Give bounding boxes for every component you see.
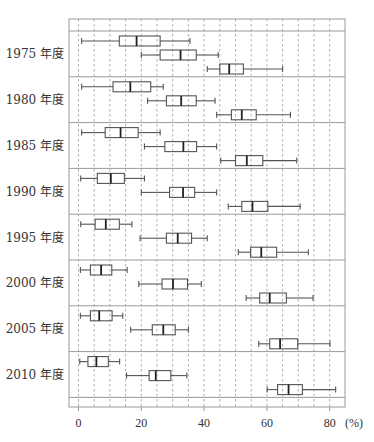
boxplot	[81, 173, 145, 183]
iqr-box	[95, 219, 119, 229]
iqr-box	[162, 279, 187, 289]
boxplot	[267, 385, 335, 395]
x-tick-label: 40	[198, 416, 210, 430]
boxplot	[144, 142, 216, 152]
x-tick-label: 20	[135, 416, 147, 430]
year-label: 1985 年度	[6, 138, 64, 153]
year-label: 1980 年度	[6, 92, 64, 107]
y-axis-labels: 1975 年度1980 年度1985 年度1990 年度1995 年度2000 …	[6, 46, 64, 382]
boxplot	[139, 279, 201, 289]
iqr-box	[236, 156, 263, 166]
x-tick-label: 60	[261, 416, 273, 430]
iqr-box	[251, 247, 277, 257]
iqr-box	[170, 187, 195, 197]
boxplot	[131, 325, 189, 335]
iqr-box	[105, 128, 138, 138]
group-separators	[69, 31, 345, 397]
iqr-box	[260, 293, 287, 303]
x-axis: 020406080	[76, 407, 336, 430]
iqr-box	[242, 201, 268, 211]
boxplot	[221, 156, 297, 166]
x-tick-label: 80	[324, 416, 336, 430]
boxplot	[127, 371, 187, 381]
boxplot	[80, 357, 120, 367]
iqr-box	[113, 82, 151, 92]
boxplot	[82, 36, 190, 46]
boxplot-chart: 1975 年度1980 年度1985 年度1990 年度1995 年度2000 …	[0, 0, 374, 442]
boxplot	[228, 201, 300, 211]
boxplot	[207, 64, 282, 74]
iqr-box	[278, 385, 303, 395]
iqr-box	[160, 50, 196, 60]
boxplot	[80, 311, 122, 321]
iqr-box	[220, 64, 244, 74]
boxplot	[80, 265, 127, 275]
boxplot	[141, 50, 218, 60]
boxplot	[259, 339, 330, 349]
year-label: 1975 年度	[6, 46, 64, 61]
boxplot	[81, 219, 132, 229]
boxplot	[238, 247, 308, 257]
boxplot	[217, 110, 291, 120]
boxplot	[148, 96, 216, 106]
year-label: 2010 年度	[6, 367, 64, 382]
x-tick-label: 0	[76, 416, 82, 430]
boxplot	[82, 128, 161, 138]
boxplot	[141, 187, 216, 197]
iqr-box	[270, 339, 298, 349]
iqr-box	[88, 357, 108, 367]
iqr-box	[149, 371, 171, 381]
iqr-box	[231, 110, 256, 120]
iqr-box	[166, 233, 191, 243]
boxplot	[140, 233, 207, 243]
year-label: 2000 年度	[6, 275, 64, 290]
iqr-box	[119, 36, 160, 46]
year-label: 2005 年度	[6, 321, 64, 336]
x-axis-unit-label: (%)	[345, 416, 363, 430]
iqr-box	[90, 311, 112, 321]
boxplots	[80, 36, 336, 395]
boxplot	[246, 293, 313, 303]
year-label: 1995 年度	[6, 230, 64, 245]
year-label: 1990 年度	[6, 184, 64, 199]
iqr-box	[165, 142, 197, 152]
